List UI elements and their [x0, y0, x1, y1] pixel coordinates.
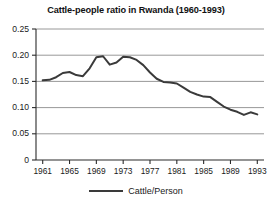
data-series-group	[43, 56, 258, 115]
x-axis-tick-label: 1993	[242, 166, 272, 176]
y-axis-tick-label: 0.20	[1, 50, 29, 60]
y-axis-tick-label: 0.10	[1, 102, 29, 112]
line-marker-icon	[89, 190, 123, 192]
gridlines	[36, 29, 264, 134]
chart-figure: Cattle-people ratio in Rwanda (1960-1993…	[0, 0, 272, 210]
y-axis-tick-label: 0.05	[1, 128, 29, 138]
y-axis-ticks	[32, 29, 36, 160]
x-axis-tick-label: 1989	[215, 166, 245, 176]
x-axis-tick-label: 1977	[135, 166, 165, 176]
y-axis-tick-label: 0	[1, 155, 29, 165]
x-axis-tick-label: 1981	[162, 166, 192, 176]
data-line-cattle-person	[43, 56, 258, 115]
x-axis-tick-label: 1961	[28, 166, 58, 176]
plot-area	[0, 0, 272, 210]
x-axis-tick-label: 1965	[55, 166, 85, 176]
x-axis-tick-label: 1973	[108, 166, 138, 176]
y-axis-tick-label: 0.25	[1, 24, 29, 34]
x-axis-ticks	[43, 160, 258, 164]
x-axis-tick-label: 1985	[189, 166, 219, 176]
x-axis-tick-label: 1969	[81, 166, 111, 176]
chart-legend: Cattle/Person	[0, 186, 272, 196]
y-axis-tick-label: 0.15	[1, 76, 29, 86]
legend-entry-label: Cattle/Person	[128, 186, 183, 196]
